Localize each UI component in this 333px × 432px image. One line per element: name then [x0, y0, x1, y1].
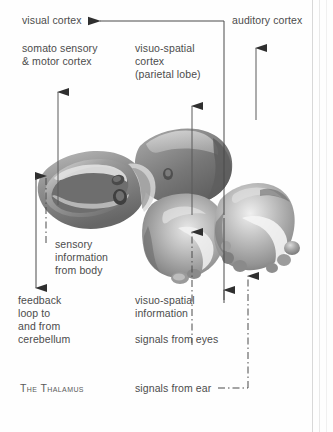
- label-visual-cortex: visual cortex: [22, 14, 82, 28]
- label-feedback-line3: and from: [18, 320, 60, 334]
- label-somato-sensory-line2: & motor cortex: [22, 55, 92, 69]
- page-edge-line-1: [312, 0, 313, 432]
- label-visuo-spatial-information-line1: visuo-spatial: [135, 294, 195, 308]
- figure-caption: The Thalamus: [20, 382, 84, 396]
- label-signals-from-eyes: signals from eyes: [135, 333, 218, 347]
- label-visuo-spatial-line1: visuo-spatial: [135, 42, 195, 56]
- label-sensory-information-line3: from body: [55, 264, 103, 278]
- label-visuo-spatial-information-line2: information: [135, 307, 188, 321]
- page-edge-line-2: [319, 0, 320, 432]
- label-sensory-information-line1: sensory: [55, 238, 92, 252]
- label-signals-from-ear: signals from ear: [135, 382, 211, 396]
- label-visuo-spatial-line3: (parietal lobe): [135, 68, 201, 82]
- label-visuo-spatial-line2: cortex: [135, 55, 164, 69]
- connector-signals-from-ear: [218, 276, 248, 388]
- label-somato-sensory-line1: somato sensory: [22, 42, 98, 56]
- label-auditory-cortex: auditory cortex: [232, 14, 302, 28]
- page-edge-line-3: [326, 0, 327, 432]
- figure-page: visual cortex auditory cortex somato sen…: [0, 0, 333, 432]
- label-sensory-information-line2: information: [55, 251, 108, 265]
- label-feedback-line4: cerebellum: [18, 333, 70, 347]
- label-feedback-line1: feedback: [18, 294, 61, 308]
- label-feedback-line2: loop to: [18, 307, 50, 321]
